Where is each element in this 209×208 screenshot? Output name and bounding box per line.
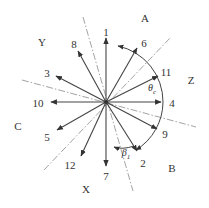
vector-label-9: 9	[162, 129, 168, 140]
region-label-x: X	[82, 184, 90, 195]
vector-label-7: 7	[103, 171, 109, 182]
dash-axis-1	[83, 17, 133, 191]
origin-point	[104, 100, 108, 104]
vector-label-4: 4	[169, 98, 175, 109]
vector-label-11: 11	[161, 67, 172, 78]
region-label-a: A	[141, 13, 149, 24]
vector-label-5: 5	[44, 132, 50, 143]
vector-label-10: 10	[33, 98, 44, 109]
vector-5-arrow	[57, 102, 106, 130]
region-label-b: B	[168, 163, 175, 174]
vector-label-1: 1	[103, 27, 109, 38]
vector-label-3: 3	[44, 68, 50, 79]
beta-1-label: β1	[122, 148, 130, 161]
arc-lower	[136, 102, 163, 150]
region-label-y: Y	[38, 37, 46, 48]
vector-12-arrow	[81, 102, 106, 156]
vector-label-12: 12	[65, 160, 76, 171]
region-label-z: Z	[188, 75, 195, 86]
region-label-c: C	[14, 121, 21, 132]
vector-label-8: 8	[71, 39, 77, 50]
vector-9-arrow	[106, 102, 157, 129]
vector-label-6: 6	[141, 38, 147, 49]
vector-label-2: 2	[140, 158, 146, 169]
theta-c-label: θc	[148, 83, 156, 96]
theta-arc	[118, 46, 163, 102]
